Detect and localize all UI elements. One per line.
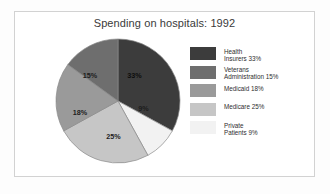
pie-chart-svg: 33%9%25%18%15% <box>55 38 181 164</box>
chart-title: Spending on hospitals: 1992 <box>14 17 315 29</box>
legend-item[interactable]: Private Patients 9% <box>190 121 302 140</box>
legend-item[interactable]: Veterans Administration 15% <box>190 66 302 85</box>
chart-legend: Health Insurers 33%Veterans Administrati… <box>190 47 302 140</box>
pie-chart: 33%9%25%18%15% <box>55 38 181 164</box>
legend-item-label: Private Patients 9% <box>224 121 258 136</box>
legend-color-swatch <box>190 84 216 97</box>
legend-color-swatch <box>190 66 216 79</box>
legend-item-label: Medicaid 18% <box>224 84 264 92</box>
pie-slice-group <box>56 39 180 163</box>
legend-color-swatch <box>190 121 216 134</box>
legend-item[interactable]: Medicare 25% <box>190 103 302 122</box>
pie-slice-label: 9% <box>138 104 149 113</box>
pie-slice-label: 25% <box>106 132 121 141</box>
legend-color-swatch <box>190 103 216 116</box>
pie-slice-label: 18% <box>73 108 88 117</box>
pie-slice-label: 15% <box>83 71 98 80</box>
legend-item[interactable]: Medicaid 18% <box>190 84 302 103</box>
pie-slice-label: 33% <box>127 71 142 80</box>
chart-figure: Spending on hospitals: 1992 33%9%25%18%1… <box>0 0 330 194</box>
legend-color-swatch <box>190 47 216 60</box>
legend-item-label: Health Insurers 33% <box>224 47 261 62</box>
legend-item-label: Veterans Administration 15% <box>224 66 278 81</box>
legend-item[interactable]: Health Insurers 33% <box>190 47 302 66</box>
legend-item-label: Medicare 25% <box>224 103 264 111</box>
